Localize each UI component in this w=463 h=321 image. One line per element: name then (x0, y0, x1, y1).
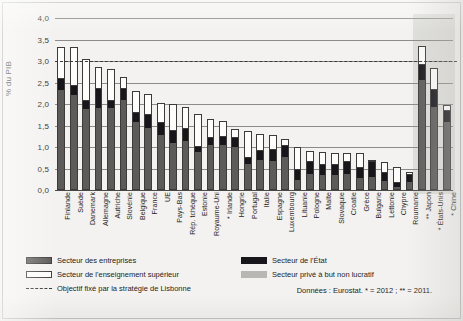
x-axis-tick-label: Autriche (114, 192, 121, 218)
bar-segment-highered (132, 91, 140, 113)
bar-segment-state (331, 165, 339, 176)
bar-segment-business (356, 178, 364, 190)
bar-segment-business (418, 80, 426, 190)
bar-segment-highered (194, 114, 202, 148)
bar-segment-highered (356, 153, 364, 168)
bar--états-unis (430, 68, 438, 190)
bar-segment-highered (120, 77, 128, 89)
x-axis-tick-label: * États-Unis (437, 192, 444, 230)
bar-segment-highered (269, 135, 277, 151)
bar-segment-highered (256, 134, 264, 151)
bar-segment-highered (343, 153, 351, 162)
bar-segment-business (207, 145, 215, 190)
legend-label-state: Secteur de l'État (272, 256, 327, 265)
y-axis-tick-label: 1,5 (38, 121, 49, 130)
bar-segment-business (306, 174, 314, 190)
bar-segment-business (194, 152, 202, 190)
y-axis-tick-label: 0,5 (38, 164, 49, 173)
x-axis-tick-label: Lettonie (388, 192, 395, 218)
bar-segment-business (368, 177, 376, 190)
bar-hongrie (231, 129, 239, 190)
x-axis-tick-label: Bulgarie (375, 192, 382, 218)
bar-segment-business (406, 182, 414, 190)
bar-allemagne (95, 67, 103, 190)
legend-item-higher-education: Secteur de l'enseignement supérieur (26, 270, 179, 279)
bar-royaume-uni (207, 119, 215, 190)
bar-segment-business (182, 141, 190, 190)
bar-segment-highered (381, 162, 389, 173)
legend-item-lisbon-target: Objectif fixé par la stratégie de Lisbon… (26, 284, 191, 293)
y-axis-tick-label: 1,0 (38, 143, 49, 152)
bar-segment-state (269, 150, 277, 160)
x-axis-tick-label: France (151, 192, 158, 214)
x-axis-tick-label: Allemagne (102, 192, 109, 226)
legend-swatch-higher-education-icon (26, 271, 52, 278)
bar-segment-business (269, 161, 277, 190)
bar-segment-state (82, 101, 90, 109)
legend-label-business: Secteur des entreprises (57, 256, 136, 265)
bar-segment-business (70, 95, 78, 190)
bar-pologne (306, 151, 314, 190)
y-axis-tick-label: 3,5 (38, 35, 49, 44)
bar-segment-highered (418, 46, 426, 65)
legend-label-higher-education: Secteur de l'enseignement supérieur (57, 270, 179, 279)
bar-segment-business (107, 108, 115, 190)
bar-segment-business (169, 143, 177, 190)
bar-segment-state (144, 115, 152, 128)
bar-segment-business (95, 108, 103, 190)
bar-segment-state (343, 162, 351, 174)
bar-segment-state (231, 138, 239, 147)
bar-ue (157, 103, 165, 190)
bar-luxembourg (281, 139, 289, 190)
bar-bulgarie (368, 160, 376, 190)
x-axis-tick-label: Belgique (139, 192, 146, 220)
legend-item-state: Secteur de l'État (241, 256, 327, 265)
bar-segment-highered (144, 94, 152, 115)
bar-segment-state (132, 113, 140, 122)
y-axis-tick-label: 3,0 (38, 57, 49, 66)
bar-segment-highered (157, 103, 165, 123)
x-axis-tick-label: Chypre (400, 192, 407, 215)
bar-segment-highered (331, 153, 339, 165)
bar-segment-business (381, 181, 389, 190)
x-axis-tick-label: Italie (263, 192, 270, 207)
x-axis-tick-label: Finlande (64, 192, 71, 220)
y-axis-tick-label: 2,0 (38, 100, 49, 109)
lisbon-target-line (55, 61, 457, 62)
bar-segment-business (57, 90, 65, 190)
bar-segment-state (219, 137, 227, 145)
bar-segment-state (294, 170, 302, 179)
bar-segment-business (120, 100, 128, 190)
bar-segment-highered (82, 59, 90, 101)
bar-segment-state (182, 129, 190, 140)
bar-segment-state (169, 131, 177, 143)
bar-segment-state (430, 90, 438, 107)
bar-segment-business (343, 174, 351, 190)
bar-segment-state (406, 175, 414, 183)
bar-segment-state (381, 173, 389, 181)
bar-slovaquie (331, 153, 339, 190)
bar-croatie (343, 153, 351, 190)
bar-segment-highered (169, 104, 177, 131)
bar-italie (256, 134, 264, 190)
x-axis-tick-label: Grèce (363, 192, 370, 212)
bar-pays-bas (169, 104, 177, 190)
plot-area: 0,00,51,01,52,02,53,03,54,0 (55, 18, 453, 190)
bar-rép-tchèque (182, 107, 190, 190)
bar-espagne (269, 135, 277, 190)
x-axis-tick-label: Pays-Bas (176, 192, 183, 223)
bar-segment-state (57, 79, 65, 90)
bar-segment-business (281, 157, 289, 190)
bar-france (144, 94, 152, 190)
legend-swatch-business-icon (26, 257, 52, 264)
bar-belgique (132, 91, 140, 190)
bar--irlande (219, 121, 227, 190)
bar-suède (70, 47, 78, 190)
bar-segment-highered (219, 121, 227, 136)
gridline (55, 190, 453, 191)
bar-segment-highered (231, 129, 239, 138)
x-axis-tick-label: * Irlande (226, 192, 233, 219)
legend-swatch-nonprofit-icon (241, 271, 267, 278)
bar-segment-business (393, 187, 401, 190)
bar-segment-state (120, 89, 128, 99)
